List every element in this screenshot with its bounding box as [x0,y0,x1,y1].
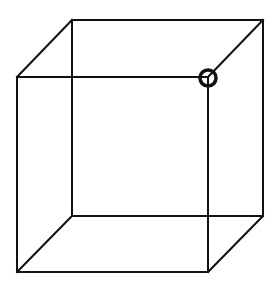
cube-diagram: wireframe-cube (Necker cube) [0,0,280,284]
cube-edge [17,216,72,272]
cube-edge [208,216,263,272]
cube-svg [0,0,280,284]
cube-edge [17,20,72,77]
cube-edge [208,20,263,77]
cube-edges [17,20,263,272]
